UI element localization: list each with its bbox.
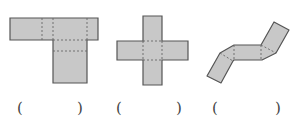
answer-blank-2-open: (	[116, 101, 122, 116]
answer-blank-3-open: (	[212, 101, 218, 116]
answer-blank-3-close: )	[275, 101, 281, 116]
answer-blank-2-close: )	[176, 101, 182, 116]
figure-1-net	[10, 18, 98, 83]
answer-blank-1-open: (	[17, 101, 23, 116]
figure-3-net	[207, 22, 289, 83]
answer-blank-1-close: )	[77, 101, 83, 116]
nets-diagram	[0, 0, 300, 124]
figure-2-net	[117, 16, 188, 85]
